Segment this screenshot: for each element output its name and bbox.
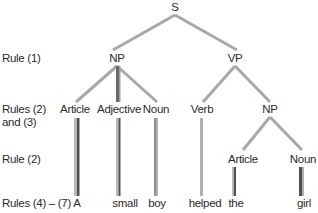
terminal-stems (74, 118, 304, 196)
node-vp: VP (228, 52, 243, 65)
leaf-small: small (112, 197, 137, 210)
branch-np-noun (117, 66, 157, 102)
rule-label-4: Rules (4) – (7) (2, 197, 71, 210)
leaf-helped: helped (189, 197, 222, 210)
branch-vp-np (235, 66, 270, 102)
rule-label-3: Rule (2) (2, 153, 41, 166)
branch-np2-noun (270, 117, 302, 150)
node-article: Article (60, 103, 90, 116)
branch-np-article (76, 66, 117, 102)
leaf-boy: boy (148, 197, 166, 210)
node-adjective: Adjective (97, 103, 141, 116)
branch-s-np (113, 15, 175, 50)
rule-label-2a: Rules (2) (2, 103, 46, 116)
rule-label-1: Rule (1) (2, 52, 41, 65)
rule-label-2b: and (3) (2, 116, 36, 129)
node-np: NP (109, 52, 124, 65)
leaf-girl: girl (297, 197, 311, 210)
leaf-the: the (228, 197, 243, 210)
branch-s-vp (175, 15, 237, 50)
node-np2: NP (262, 103, 277, 116)
node-noun: Noun (143, 103, 169, 116)
branch-vp-verb (203, 66, 235, 102)
node-s: S (171, 1, 178, 14)
node-noun2: Noun (290, 153, 316, 166)
branch-np2-article (243, 117, 270, 150)
leaf-a: A (73, 197, 80, 210)
node-article2: Article (228, 153, 258, 166)
node-verb: Verb (191, 103, 213, 116)
